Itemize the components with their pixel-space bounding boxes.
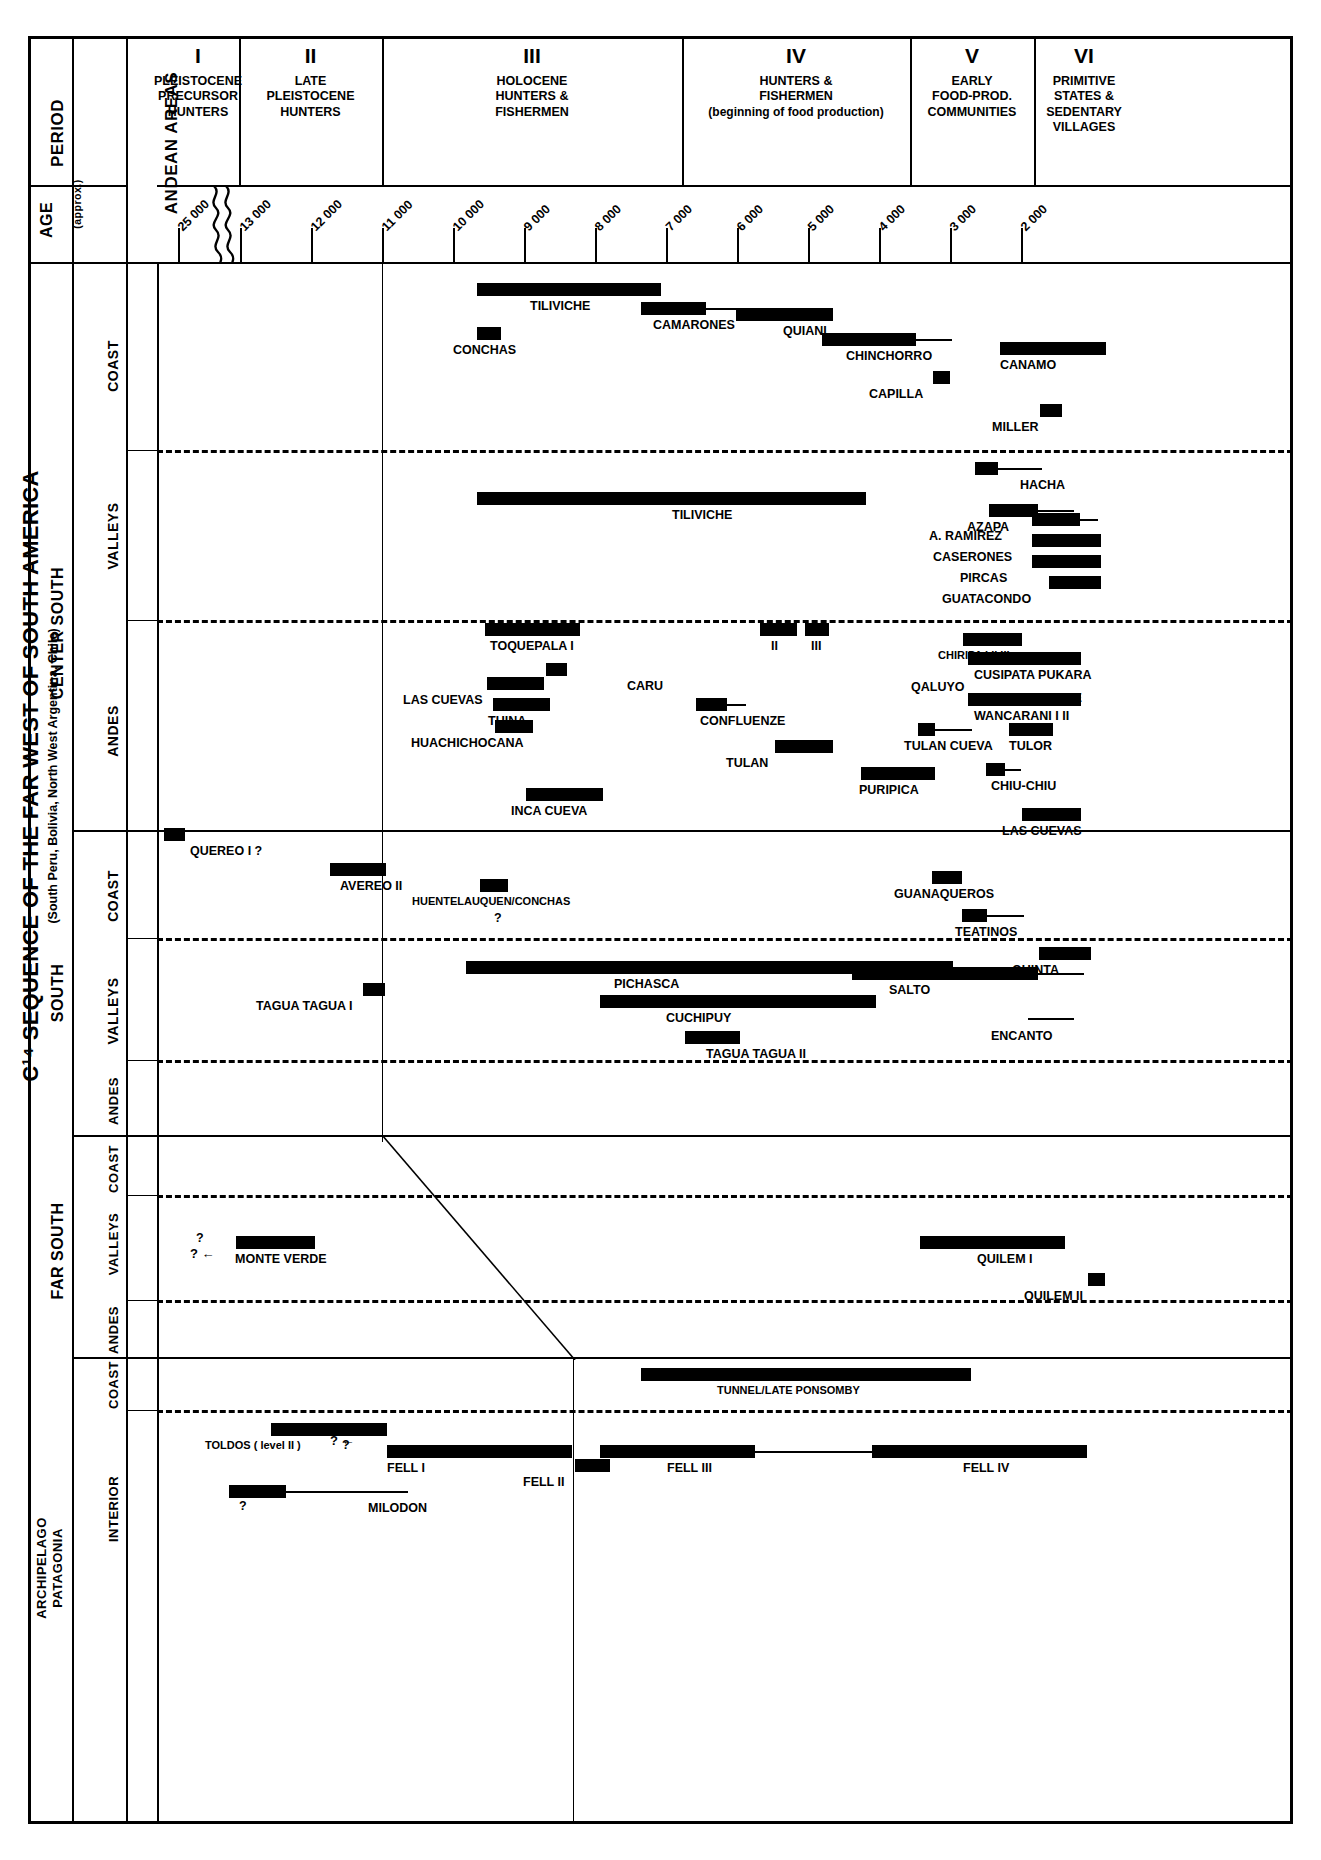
site-label: GUANAQUEROS	[894, 888, 994, 901]
divider-farsouth-patagonia	[126, 1357, 1293, 1359]
chronology-chart: C¹⁴ SEQUENCE OF THE FAR WEST OF SOUTH AM…	[0, 0, 1321, 1860]
period-line: HUNTERS	[267, 105, 355, 120]
site-bar	[495, 720, 533, 733]
period-line: STATES &	[1046, 89, 1122, 104]
site-bar	[920, 1236, 1065, 1249]
divider-south-farsouth	[126, 1135, 1293, 1137]
divider-subarea-col	[157, 262, 159, 1824]
divider-pat-coast-interior	[157, 1410, 1293, 1413]
site-bar	[546, 663, 567, 676]
axis-tick	[879, 228, 881, 262]
period-divider-2	[382, 36, 384, 185]
site-bar	[363, 983, 385, 996]
period-roman: I	[195, 44, 201, 67]
period-line: FOOD-PROD.	[928, 89, 1017, 104]
divider-s-coast-valleys	[157, 938, 1293, 941]
site-bar	[600, 1445, 755, 1458]
site-label: TAGUA TAGUA II	[706, 1048, 806, 1061]
site-bar	[975, 462, 998, 475]
site-label: QUEREO I ?	[190, 845, 262, 858]
site-label: LAS CUEVAS	[1002, 825, 1082, 838]
site-bar	[575, 1459, 610, 1472]
site-bar	[1022, 808, 1081, 821]
boundary-diagonal	[380, 1135, 580, 1360]
divider-period-col	[126, 36, 128, 262]
period-line: PRECURSOR	[154, 89, 242, 104]
axis-tick	[595, 228, 597, 262]
site-label: CAPILLA	[869, 388, 923, 401]
site-bar	[641, 1368, 971, 1381]
site-bar	[1088, 1273, 1105, 1286]
site-label: HACHA	[1020, 479, 1065, 492]
uncertainty-arrow: ? ←	[330, 1433, 355, 1448]
period-line: HUNTERS &	[495, 89, 569, 104]
period-cell-4: IV HUNTERS & FISHERMEN (beginning of foo…	[682, 44, 910, 119]
site-bar	[600, 995, 876, 1008]
divider-period-age	[28, 185, 126, 187]
period-cell-2: II LATE PLEISTOCENE HUNTERS	[239, 44, 382, 120]
axis-tick	[737, 228, 739, 262]
site-bar-extension	[916, 339, 952, 341]
site-bar	[1040, 404, 1062, 417]
site-label: CHIU-CHIU	[991, 780, 1056, 793]
site-bar	[822, 333, 916, 346]
site-bar-extension	[286, 1491, 408, 1493]
site-label: HUACHICHOCANA	[411, 737, 524, 750]
site-label: TULAN	[726, 757, 768, 770]
subarea-label-cs-valleys: VALLEYS	[102, 461, 124, 611]
site-label: ?	[494, 912, 502, 925]
site-label: GUATACONDO	[942, 593, 1031, 606]
site-bar	[760, 623, 797, 636]
period-cell-6: VI PRIMITIVE STATES & SEDENTARY VILLAGES	[1034, 44, 1134, 135]
axis-tick	[382, 228, 384, 262]
period-divider-5	[1034, 36, 1036, 185]
site-bar	[493, 698, 550, 711]
period-line: FISHERMEN	[495, 105, 569, 120]
site-bar-extension	[1080, 519, 1098, 521]
site-bar	[962, 909, 987, 922]
site-bar	[968, 693, 1081, 706]
site-label: MONTE VERDE	[235, 1253, 327, 1266]
site-label: CHINCHORRO	[846, 350, 932, 363]
axis-tick	[808, 228, 810, 262]
period-line: HOLOCENE	[495, 74, 569, 89]
divider-centersouth-south	[126, 830, 1293, 832]
site-label: AVEREO II	[340, 880, 402, 893]
subarea-sep	[126, 938, 157, 939]
period-line: LATE	[267, 74, 355, 89]
period-row-bottom	[157, 185, 1293, 187]
subarea-label-fs-valleys: VALLEYS	[102, 1189, 124, 1299]
site-label: ?	[196, 1232, 204, 1245]
body-boundary-lower	[573, 1357, 574, 1824]
site-bar-extension	[1038, 973, 1084, 975]
site-bar	[480, 879, 508, 892]
site-label: A. RAMIREZ	[929, 530, 1002, 543]
label-age: AGE	[27, 181, 67, 259]
site-bar-extension	[755, 1451, 873, 1453]
period-divider-1	[239, 36, 241, 185]
site-label: PIRCAS	[960, 572, 1007, 585]
period-line: FISHERMEN	[708, 89, 883, 104]
axis-tick	[311, 228, 313, 262]
subarea-sep	[126, 1410, 157, 1411]
site-bar	[1000, 342, 1106, 355]
region-label-patagonia: ARCHIPELAGOPATAGONIA	[30, 1468, 70, 1668]
site-bar	[271, 1423, 387, 1436]
site-label: INCA CUEVA	[511, 805, 587, 818]
site-bar-extension	[727, 704, 746, 706]
region-label-south: SOUTH	[45, 893, 71, 1093]
site-bar	[485, 623, 580, 636]
subarea-label-pat-interior: INTERIOR	[102, 1444, 124, 1574]
period-line: EARLY	[928, 74, 1017, 89]
site-bar	[236, 1236, 315, 1249]
site-label: TILIVICHE	[530, 300, 590, 313]
site-bar	[477, 327, 501, 340]
site-bar	[685, 1031, 740, 1044]
site-bar	[330, 863, 386, 876]
site-bar-extension	[987, 915, 1024, 917]
site-label: ?	[239, 1500, 247, 1513]
site-label: ENCANTO	[991, 1030, 1053, 1043]
uncertainty-arrow: ? ←	[190, 1246, 215, 1261]
site-bar	[918, 723, 935, 736]
divider-fs-coast-valleys	[157, 1195, 1293, 1198]
